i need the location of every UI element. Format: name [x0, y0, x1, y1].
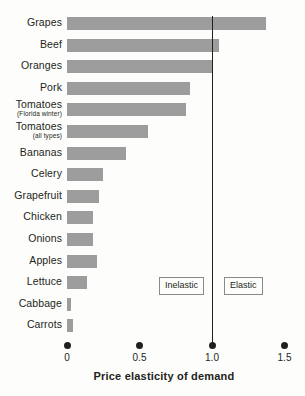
price-elasticity-bar-chart: GrapesBeefOrangesPorkTomatoes(Florida wi…: [0, 0, 304, 396]
bar-row: Apples: [0, 254, 304, 276]
bar-category-name: Grapes: [0, 17, 62, 28]
x-axis: 00.51.01.5Price elasticity of demand: [0, 340, 304, 396]
bar-category-label: Grapes: [0, 17, 62, 28]
bar: [67, 298, 71, 311]
bar-category-name: Cabbage: [0, 298, 62, 309]
bar-category-name: Tomatoes: [0, 121, 62, 132]
bar-category-label: Beef: [0, 39, 62, 50]
bar-category-label: Celery: [0, 168, 62, 179]
bar-category-label: Tomatoes(Florida winter): [0, 99, 62, 117]
bar-category-name: Onions: [0, 233, 62, 244]
x-axis-tick-label: 0.5: [120, 352, 160, 364]
plot-area: GrapesBeefOrangesPorkTomatoes(Florida wi…: [0, 0, 304, 340]
bar-category-name: Pork: [0, 82, 62, 93]
bar-row: Grapefruit: [0, 189, 304, 211]
bar-category-sublabel: (all types): [0, 132, 62, 139]
x-axis-title: Price elasticity of demand: [0, 370, 304, 382]
bar-category-name: Carrots: [0, 319, 62, 330]
bar-category-name: Chicken: [0, 211, 62, 222]
bar: [67, 103, 186, 116]
bar-row: Beef: [0, 38, 304, 60]
bar: [67, 147, 126, 160]
bar: [67, 255, 97, 268]
bar: [67, 82, 190, 95]
x-axis-tick-dot: [281, 342, 288, 349]
x-axis-tick-label: 1.5: [265, 352, 305, 364]
x-axis-tick-label: 1.0: [192, 352, 232, 364]
bar: [67, 190, 99, 203]
bar-category-name: Bananas: [0, 147, 62, 158]
bar-category-name: Lettuce: [0, 276, 62, 287]
bar: [67, 319, 73, 332]
bar-category-label: Grapefruit: [0, 190, 62, 201]
bar-category-name: Apples: [0, 255, 62, 266]
bar-category-label: Onions: [0, 233, 62, 244]
annotation-elastic: Elastic: [224, 277, 263, 295]
bar-category-name: Tomatoes: [0, 99, 62, 110]
bar-category-name: Beef: [0, 39, 62, 50]
x-axis-tick-dot: [64, 342, 71, 349]
bar-category-label: Cabbage: [0, 298, 62, 309]
bar-row: Carrots: [0, 318, 304, 340]
bar: [67, 125, 148, 138]
bar-category-name: Celery: [0, 168, 62, 179]
bar: [67, 39, 219, 52]
bar: [67, 211, 93, 224]
bar-row: Celery: [0, 167, 304, 189]
bar-row: Bananas: [0, 146, 304, 168]
bar-row: Chicken: [0, 210, 304, 232]
bar-category-sublabel: (Florida winter): [0, 110, 62, 117]
bar-row: Onions: [0, 232, 304, 254]
x-axis-tick-dot: [136, 342, 143, 349]
bar: [67, 276, 87, 289]
bar-category-label: Tomatoes(all types): [0, 121, 62, 139]
x-axis-tick-label: 0: [47, 352, 87, 364]
x-axis-tick-dot: [209, 342, 216, 349]
bar-category-label: Lettuce: [0, 276, 62, 287]
bar: [67, 168, 103, 181]
bar-category-label: Chicken: [0, 211, 62, 222]
bar-row: Cabbage: [0, 297, 304, 319]
bar-row: Grapes: [0, 16, 304, 38]
bar-row: Oranges: [0, 59, 304, 81]
bar-category-name: Grapefruit: [0, 190, 62, 201]
bar: [67, 233, 93, 246]
bar-category-label: Apples: [0, 255, 62, 266]
bar-category-label: Carrots: [0, 319, 62, 330]
bar: [67, 17, 266, 30]
bar-category-label: Pork: [0, 82, 62, 93]
bar-category-name: Oranges: [0, 60, 62, 71]
unit-elastic-reference-line: [212, 16, 213, 346]
bar-category-label: Bananas: [0, 147, 62, 158]
bar-row: Tomatoes(all types): [0, 124, 304, 146]
bar-category-label: Oranges: [0, 60, 62, 71]
annotation-inelastic: Inelastic: [159, 277, 204, 295]
bar: [67, 60, 212, 73]
